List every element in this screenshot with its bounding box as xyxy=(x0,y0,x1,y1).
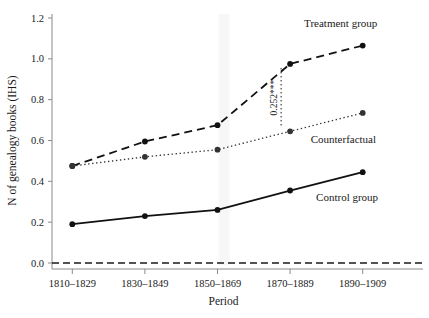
y-tick-label: 0.6 xyxy=(31,135,44,146)
data-point xyxy=(360,110,366,116)
data-point xyxy=(142,139,148,145)
y-tick-label: 0.2 xyxy=(31,217,44,228)
x-tick-label: 1890–1909 xyxy=(339,278,386,289)
x-tick-label: 1810–1829 xyxy=(49,278,96,289)
y-axis-title: N of genealogy books (IHS) xyxy=(6,75,19,205)
series-label-control: Control group xyxy=(316,191,379,203)
y-tick-label: 1.0 xyxy=(31,53,44,64)
y-tick-label: 0.8 xyxy=(31,94,44,105)
data-point xyxy=(215,207,221,213)
chart-container: 0.00.20.40.60.81.01.21810–18291830–18491… xyxy=(0,0,429,318)
line-chart: 0.00.20.40.60.81.01.21810–18291830–18491… xyxy=(0,0,429,318)
x-tick-label: 1870–1889 xyxy=(266,278,313,289)
data-point xyxy=(215,122,221,128)
data-point xyxy=(287,61,293,67)
effect-size-annotation: 0.252*** xyxy=(269,80,279,116)
series-label-counterfactual: Counterfactual xyxy=(311,133,376,145)
x-tick-label: 1850–1869 xyxy=(194,278,241,289)
y-tick-label: 1.2 xyxy=(31,13,44,24)
data-point xyxy=(69,163,75,169)
y-tick-label: 0.0 xyxy=(31,258,44,269)
data-point xyxy=(69,221,75,227)
data-point xyxy=(360,169,366,175)
highlight-band xyxy=(219,14,230,265)
x-tick-label: 1830–1849 xyxy=(121,278,168,289)
data-point xyxy=(360,43,366,49)
data-point xyxy=(287,128,293,134)
series-label-treatment: Treatment group xyxy=(304,17,378,29)
data-point xyxy=(142,154,148,160)
x-axis-title: Period xyxy=(208,295,238,307)
data-point xyxy=(215,147,221,153)
y-tick-label: 0.4 xyxy=(31,176,45,187)
data-point xyxy=(287,188,293,194)
data-point xyxy=(142,213,148,219)
